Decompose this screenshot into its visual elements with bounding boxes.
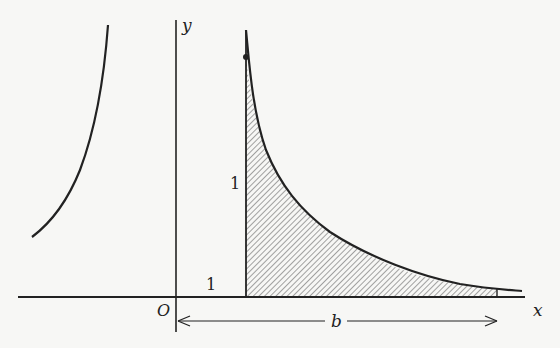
area-under-curve-diagram: y x O 1 1 b <box>0 0 560 348</box>
curve-left-branch <box>32 25 108 237</box>
y-axis-label: y <box>181 15 192 35</box>
origin-label: O <box>157 301 170 320</box>
b-dimension-label: b <box>331 311 342 331</box>
x-axis-label: x <box>533 300 543 320</box>
shaded-area <box>246 57 497 297</box>
unit-height-label: 1 <box>230 174 240 193</box>
unit-x-label: 1 <box>206 275 216 294</box>
